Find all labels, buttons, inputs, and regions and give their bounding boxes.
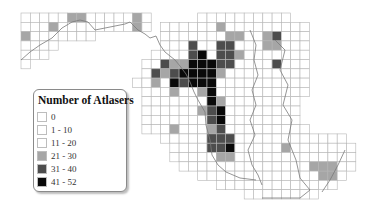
grid-cell [328, 180, 337, 189]
grid-cell [235, 125, 244, 134]
grid-cell [30, 32, 39, 41]
grid-cell [291, 78, 300, 87]
grid-cell [179, 50, 188, 59]
grid-cell [226, 162, 235, 171]
grid-cell [319, 171, 328, 180]
grid-cell [170, 143, 179, 152]
grid-cell [291, 41, 300, 50]
grid-cell [263, 60, 272, 69]
grid-cell [21, 60, 30, 69]
grid-cell [216, 125, 225, 134]
grid-cell [40, 13, 49, 22]
grid-cell [281, 162, 290, 171]
grid-cell [300, 134, 309, 143]
grid-cell [291, 125, 300, 134]
grid-cell [216, 153, 225, 162]
grid-cell [254, 22, 263, 31]
grid-cell [114, 13, 123, 22]
grid-cell [216, 32, 225, 41]
grid-cell [272, 32, 281, 41]
grid-cell [188, 153, 197, 162]
grid-cell [207, 50, 216, 59]
grid-cell [263, 50, 272, 59]
grid-cell [216, 143, 225, 152]
grid-cell [244, 69, 253, 78]
grid-cell [207, 97, 216, 106]
grid-cell [49, 41, 58, 50]
grid-cell [263, 171, 272, 180]
grid-cell [319, 153, 328, 162]
legend-swatch [37, 125, 47, 135]
grid-cell [216, 134, 225, 143]
grid-cell [142, 106, 151, 115]
grid-cell [254, 143, 263, 152]
legend-item: 1 - 10 [37, 124, 72, 135]
grid-cell [281, 69, 290, 78]
grid-cell [272, 125, 281, 134]
legend-item: 0 [37, 111, 56, 122]
grid-cell [337, 143, 346, 152]
grid-cell [272, 22, 281, 31]
grid-cell [170, 60, 179, 69]
grid-cell [235, 78, 244, 87]
grid-cell [188, 22, 197, 31]
grid-cell [300, 60, 309, 69]
grid-cell [226, 134, 235, 143]
grid-cell [300, 78, 309, 87]
grid-cell [226, 153, 235, 162]
grid-cell [337, 171, 346, 180]
grid-cell [142, 125, 151, 134]
grid-cell [244, 41, 253, 50]
legend-label: 11 - 20 [51, 138, 76, 148]
grid-cell [198, 50, 207, 59]
grid-cell [40, 32, 49, 41]
grid-cell [300, 50, 309, 59]
grid-cell [142, 87, 151, 96]
grid-cell [207, 13, 216, 22]
grid-cell [300, 171, 309, 180]
grid-cell [207, 78, 216, 87]
grid-cell [272, 134, 281, 143]
grid-cell [281, 171, 290, 180]
grid-cell [216, 171, 225, 180]
grid-cell [142, 22, 151, 31]
grid-cell [309, 190, 318, 199]
grid-cell [86, 22, 95, 31]
grid-cell [179, 87, 188, 96]
legend-swatch [37, 112, 47, 122]
grid-cell [300, 180, 309, 189]
grid-cell [235, 60, 244, 69]
legend-item: 41 - 52 [37, 176, 77, 187]
grid-cell [207, 106, 216, 115]
grid-cell [300, 87, 309, 96]
grid-cell [114, 22, 123, 31]
grid-cell [161, 106, 170, 115]
grid-cell [291, 50, 300, 59]
grid-cell [272, 13, 281, 22]
grid-cell [272, 87, 281, 96]
grid-cell [198, 153, 207, 162]
grid-cell [263, 69, 272, 78]
grid-cell [254, 153, 263, 162]
grid-cell [49, 13, 58, 22]
grid-cell [170, 22, 179, 31]
grid-cell [198, 41, 207, 50]
grid-cell [226, 41, 235, 50]
grid-cell [161, 134, 170, 143]
grid-cell [263, 125, 272, 134]
grid-cell [235, 22, 244, 31]
grid-cell [179, 162, 188, 171]
grid-cell [281, 60, 290, 69]
grid-cell [226, 78, 235, 87]
grid-cell [281, 143, 290, 152]
grid-cell [188, 115, 197, 124]
grid-cell [272, 106, 281, 115]
grid-cell [170, 106, 179, 115]
legend-swatch [37, 177, 47, 187]
grid-cell [347, 143, 356, 152]
grid-cell [291, 32, 300, 41]
grid-cell [188, 143, 197, 152]
grid-cell [244, 180, 253, 189]
grid-cell [30, 22, 39, 31]
grid-cell [272, 115, 281, 124]
